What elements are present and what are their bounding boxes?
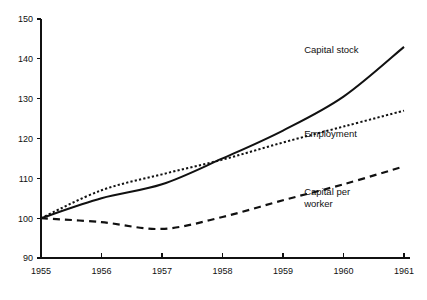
- y-tick-label-140: 140: [18, 54, 33, 64]
- series-label-employment: Employment: [304, 128, 357, 139]
- y-axis-ticks: 90100110120130140150: [18, 14, 41, 263]
- y-tick-label-100: 100: [18, 214, 33, 224]
- y-tick-label-150: 150: [18, 14, 33, 24]
- series-label-line-1: Capital per: [304, 186, 350, 197]
- x-tick-label-1956: 1956: [91, 266, 111, 276]
- x-axis: 1955195619571958195919601961: [31, 253, 414, 276]
- x-tick-label-1957: 1957: [152, 266, 172, 276]
- series-label-line-2: worker: [303, 198, 333, 209]
- y-tick-label-120: 120: [18, 134, 33, 144]
- x-tick-label-1960: 1960: [333, 266, 353, 276]
- y-tick-label-90: 90: [23, 253, 33, 263]
- series-annotations: Capital stockEmploymentCapital perworker: [303, 44, 359, 209]
- series-line-capital-per-worker: [41, 166, 404, 229]
- x-tick-label-1961: 1961: [394, 266, 414, 276]
- y-axis: 90100110120130140150: [18, 14, 41, 263]
- x-tick-label-1958: 1958: [212, 266, 232, 276]
- x-tick-label-1959: 1959: [273, 266, 293, 276]
- y-tick-label-130: 130: [18, 94, 33, 104]
- series-label-capital-stock: Capital stock: [304, 44, 359, 55]
- chart-container: 90100110120130140150 1955195619571958195…: [0, 0, 427, 300]
- x-axis-ticks: 1955195619571958195919601961: [31, 253, 414, 276]
- line-chart: 90100110120130140150 1955195619571958195…: [0, 0, 427, 300]
- x-tick-label-1955: 1955: [31, 266, 51, 276]
- y-tick-label-110: 110: [19, 174, 33, 184]
- series-label-capital-per-worker: Capital perworker: [303, 186, 350, 209]
